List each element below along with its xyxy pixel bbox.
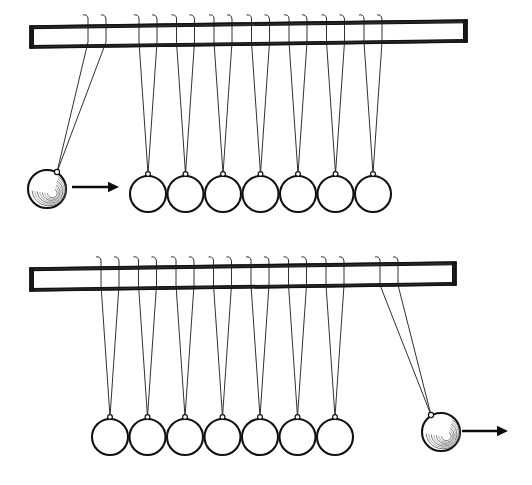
suspension-string-leg-right [185,285,194,417]
pendulum-ball [205,176,241,212]
motion-arrow-head [497,426,508,436]
motion-arrow-head [108,182,119,192]
suspension-string-leg-left [327,42,336,174]
suspension-string-leg-right [335,285,344,417]
string-eyelet [146,172,151,177]
string-eyelet [333,172,338,177]
support-bar-right-cap [464,20,468,42]
suspension-string-leg-left [177,42,186,174]
suspension-string-leg-right [110,285,119,417]
string-eyelet [183,172,188,177]
pendulum-ball [280,419,316,455]
string-eyelet [183,415,188,420]
suspension-string-leg-left [289,42,298,174]
pendulum-ball [167,419,203,455]
string-eyelet [295,415,300,420]
suspension-string-leg-left [289,285,298,417]
suspension-string-leg-right [260,285,269,417]
string-eyelet [428,412,433,417]
string-eyelet [371,172,376,177]
suspension-string-leg-right [57,42,106,172]
pendulum-ball [280,176,316,212]
support-bar-left-cap [30,268,34,291]
suspension-string-leg-right [148,42,157,174]
suspension-string-leg-left [101,285,110,417]
suspension-string-leg-left [214,42,223,174]
support-bar-left-cap [30,26,34,48]
string-eyelet [258,172,263,177]
suspension-string-leg-right [223,285,232,417]
pendulum-ball [317,419,353,455]
suspension-string-leg-left [139,285,148,417]
string-eyelet [220,415,225,420]
pendulum-ball [168,176,204,212]
suspension-string-leg-right [373,42,382,174]
pendulum-ball [130,176,166,212]
string-eyelet [333,415,338,420]
suspension-string-leg-left [57,42,88,172]
string-eyelet [108,415,113,420]
suspension-string-leg-left [214,285,223,417]
suspension-string-leg-right [298,42,307,174]
suspension-string-leg-left [251,285,260,417]
pendulum-ball-swinging [422,413,460,451]
suspension-string-leg-left [364,42,373,174]
pendulum-ball [92,419,128,455]
newtons-cradle-figure [0,0,532,485]
suspension-string-leg-right [261,42,270,174]
suspension-string-leg-right [336,42,345,174]
pendulum-ball [242,419,278,455]
suspension-string-leg-right [398,285,431,415]
suspension-string-leg-left [139,42,148,174]
string-eyelet [54,169,59,174]
string-eyelet [221,172,226,177]
pendulum-ball [318,176,354,212]
pendulum-ball [130,419,166,455]
figure-canvas [0,0,532,485]
suspension-string-leg-right [148,285,157,417]
suspension-string-leg-left [380,285,431,415]
suspension-string-leg-right [298,285,307,417]
pendulum-ball-swinging [28,170,66,208]
suspension-string-leg-left [326,285,335,417]
suspension-string-leg-right [223,42,232,174]
suspension-string-leg-left [252,42,261,174]
pendulum-ball [243,176,279,212]
suspension-string-leg-right [186,42,195,174]
pendulum-ball [205,419,241,455]
pendulum-ball [355,176,391,212]
string-eyelet [145,415,150,420]
string-eyelet [296,172,301,177]
suspension-string-leg-left [176,285,185,417]
support-bar-right-cap [453,262,457,285]
string-eyelet [258,415,263,420]
